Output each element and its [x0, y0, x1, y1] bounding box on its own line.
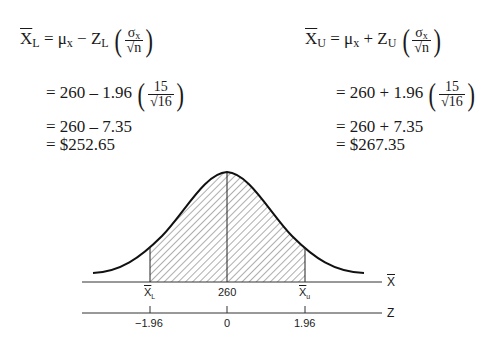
xbar-symbol: X — [387, 275, 395, 289]
x-tick-mean: 260 — [218, 287, 236, 298]
z-tick-mean-label: 0 — [224, 318, 230, 329]
x-tick-upper: Xu — [299, 287, 310, 298]
normal-curve-diagram — [0, 0, 489, 340]
x-axis-label: X — [387, 276, 395, 288]
x-tick-lower: XL — [144, 287, 155, 298]
z-axis-label: Z — [387, 307, 394, 319]
confidence-region — [93, 172, 364, 282]
subscript-u: u — [306, 293, 310, 300]
z-tick-lower-label: −1.96 — [135, 318, 163, 329]
subscript-l: L — [151, 293, 155, 300]
z-tick-upper-label: 1.96 — [294, 318, 315, 329]
